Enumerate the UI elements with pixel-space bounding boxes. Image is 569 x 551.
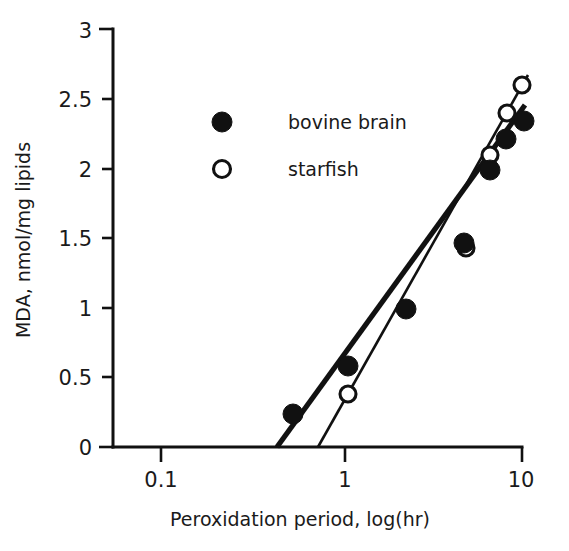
y-tick-label-0: 0: [79, 436, 92, 460]
data-point-starfish-4: [499, 105, 515, 121]
legend-label-bovine-brain: bovine brain: [288, 111, 407, 133]
data-point-bovine-brain-1: [283, 404, 303, 424]
chart-legend: bovine brain starfish: [212, 111, 407, 180]
x-axis-ticks: [161, 447, 522, 462]
legend-marker-filled-circle-icon: [212, 112, 232, 132]
legend-marker-open-circle-icon: [214, 161, 231, 178]
data-point-bovine-brain-5: [480, 160, 500, 180]
data-point-bovine-brain-6: [496, 129, 516, 149]
data-point-starfish-5: [514, 77, 530, 93]
legend-label-starfish: starfish: [288, 158, 359, 180]
y-tick-label-1: 1: [79, 297, 92, 321]
y-tick-label-2-5: 2.5: [59, 88, 92, 112]
x-tick-label-10: 10: [508, 468, 535, 492]
x-axis-title: Peroxidation period, log(hr): [170, 508, 430, 530]
x-tick-label-1: 1: [338, 468, 351, 492]
data-point-bovine-brain-7: [514, 111, 534, 131]
x-tick-label-0-1: 0.1: [144, 468, 177, 492]
y-tick-label-2: 2: [79, 158, 92, 182]
data-point-starfish-1: [340, 386, 356, 402]
y-axis-title: MDA, nmol/mg lipids: [12, 142, 34, 338]
y-tick-label-3: 3: [79, 19, 92, 43]
y-tick-label-1-5: 1.5: [59, 227, 92, 251]
y-tick-label-0-5: 0.5: [59, 366, 92, 390]
data-point-bovine-brain-3: [396, 299, 416, 319]
data-point-bovine-brain-2: [338, 356, 358, 376]
data-point-bovine-brain-4: [454, 233, 474, 253]
y-axis-ticks: [99, 29, 113, 447]
chart-figure: 0 0.5 1 1.5 2 2.5 3 0.1 1 10 Peroxidatio…: [0, 0, 569, 551]
chart-svg: 0 0.5 1 1.5 2 2.5 3 0.1 1 10 Peroxidatio…: [0, 0, 569, 551]
